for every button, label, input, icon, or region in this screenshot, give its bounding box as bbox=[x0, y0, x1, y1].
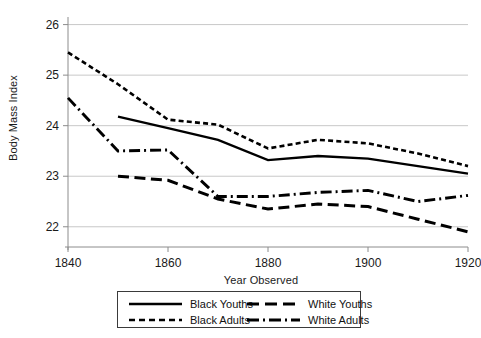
y-tick-label-23: 23 bbox=[46, 169, 60, 183]
legend-label: White Youths bbox=[308, 298, 372, 310]
y-tick-label-25: 25 bbox=[46, 68, 60, 82]
series-line-black-adults bbox=[68, 52, 468, 166]
legend-item-black-adults: Black Adults bbox=[127, 312, 250, 327]
legend-swatch-dashdot bbox=[245, 315, 302, 325]
legend-label: White Adults bbox=[308, 314, 369, 326]
x-tick-label-1840: 1840 bbox=[55, 256, 82, 270]
x-axis-title: Year Observed bbox=[196, 274, 326, 286]
y-tick-group: 2223242526 bbox=[46, 18, 68, 234]
y-axis-title: Body Mass Index bbox=[7, 58, 19, 178]
legend-label: Black Youths bbox=[190, 298, 253, 310]
legend-swatch-solid bbox=[127, 299, 184, 309]
y-tick-label-22: 22 bbox=[46, 220, 60, 234]
y-tick-label-26: 26 bbox=[46, 18, 60, 32]
y-tick-label-24: 24 bbox=[46, 119, 60, 133]
x-tick-group: 18401860188019001920 bbox=[55, 247, 481, 270]
legend-item-white-youths: White Youths bbox=[245, 296, 372, 311]
x-tick-label-1900: 1900 bbox=[355, 256, 382, 270]
x-tick-label-1860: 1860 bbox=[155, 256, 182, 270]
legend-swatch-dashed bbox=[245, 299, 302, 309]
legend-swatch-dotted bbox=[127, 315, 184, 325]
x-tick-label-1880: 1880 bbox=[255, 256, 282, 270]
legend-item-black-youths: Black Youths bbox=[127, 296, 253, 311]
data-series-group bbox=[68, 52, 468, 231]
x-tick-label-1920: 1920 bbox=[455, 256, 481, 270]
series-line-black-youths bbox=[118, 117, 468, 174]
legend-item-white-adults: White Adults bbox=[245, 312, 369, 327]
series-line-white-youths bbox=[118, 176, 468, 232]
legend: Black Youths Black Adults White Youths W… bbox=[117, 291, 361, 328]
plot-area: 2223242526 18401860188019001920 bbox=[0, 0, 481, 338]
legend-label: Black Adults bbox=[190, 314, 250, 326]
bmi-line-chart-figure: 2223242526 18401860188019001920 Body Mas… bbox=[0, 0, 481, 338]
